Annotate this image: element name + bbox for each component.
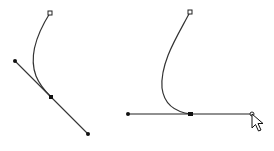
end-anchor-point[interactable] <box>188 10 192 14</box>
arrow-cursor-icon <box>252 114 263 131</box>
anchor-point[interactable] <box>188 112 193 116</box>
bezier-curve <box>162 12 191 114</box>
diagram-after <box>126 10 263 131</box>
bezier-curve <box>33 13 51 97</box>
bezier-diagram-canvas <box>0 0 274 151</box>
diagram-before <box>13 11 90 136</box>
direction-handle-end[interactable] <box>86 132 90 136</box>
direction-handle-start[interactable] <box>126 112 130 116</box>
anchor-point[interactable] <box>49 95 53 99</box>
end-anchor-point[interactable] <box>48 11 52 15</box>
direction-handle-start[interactable] <box>13 59 17 63</box>
